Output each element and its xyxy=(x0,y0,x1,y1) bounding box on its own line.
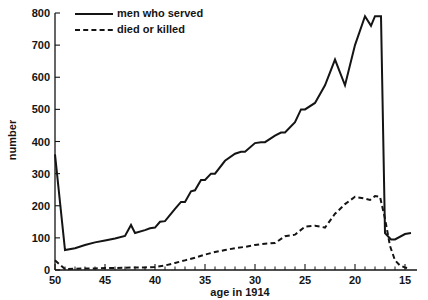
chart-legend: men who serveddied or killed xyxy=(75,7,203,35)
data-series xyxy=(55,16,411,269)
x-axis-title: age in 1914 xyxy=(210,286,270,298)
y-tick-label: 500 xyxy=(32,103,50,115)
legend-label: died or killed xyxy=(117,23,185,35)
y-tick-label: 800 xyxy=(32,7,50,19)
y-tick-label: 400 xyxy=(32,136,50,148)
y-tick-label: 200 xyxy=(32,200,50,212)
x-tick-label: 50 xyxy=(49,274,61,286)
y-tick-label: 600 xyxy=(32,71,50,83)
x-tick-label: 40 xyxy=(149,274,161,286)
x-tick-label: 20 xyxy=(349,274,361,286)
x-tick-label: 30 xyxy=(249,274,261,286)
y-tick-label: 100 xyxy=(32,232,50,244)
chart-container: 0100200300400500600700800504540353025201… xyxy=(0,0,428,300)
series-line-men-who-served xyxy=(55,16,411,250)
x-tick-label: 35 xyxy=(199,274,211,286)
y-tick-label: 300 xyxy=(32,168,50,180)
x-tick-label: 25 xyxy=(299,274,311,286)
x-tick-label: 45 xyxy=(99,274,111,286)
axes xyxy=(55,13,417,270)
x-tick-label: 15 xyxy=(399,274,411,286)
line-chart: 0100200300400500600700800504540353025201… xyxy=(0,0,428,300)
y-tick-label: 700 xyxy=(32,39,50,51)
legend-label: men who served xyxy=(117,7,203,19)
series-line-died-or-killed xyxy=(55,196,409,269)
y-axis-title: number xyxy=(6,119,18,160)
